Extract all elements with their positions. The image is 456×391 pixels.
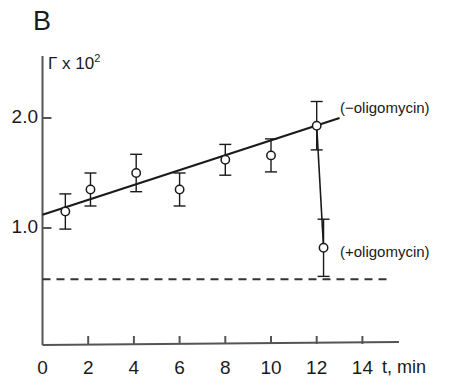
data-point-marker-0-3 [175,185,183,193]
plot-area [0,0,456,391]
x-axis-line [43,342,399,345]
data-point-marker-0-2 [132,169,140,177]
data-point-marker-0-4 [221,156,229,164]
regression-line [43,118,340,215]
data-point-marker-0-6 [313,122,321,130]
figure-panel-b: B Γ x 102 1.0 2.0 0 2 4 6 8 10 12 14 t, … [0,0,456,391]
oligomycin-drop-line [317,126,324,248]
data-point-marker-0-0 [61,207,69,215]
data-point-marker-0-1 [86,185,94,193]
data-point-marker-0-5 [267,151,275,159]
data-point-marker-1-0 [319,244,327,252]
